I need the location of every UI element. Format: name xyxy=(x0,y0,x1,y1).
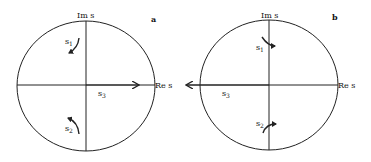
panel-label: a xyxy=(151,14,156,24)
imag-axis-label: Im s xyxy=(261,11,278,20)
s1-label: s1 xyxy=(65,37,73,47)
panel-label: b xyxy=(332,12,338,22)
s3-label: s3 xyxy=(98,89,106,99)
s1-label: s1 xyxy=(256,43,264,53)
imag-axis-label: Im s xyxy=(77,11,94,20)
real-axis-label: Re s xyxy=(338,81,355,90)
panel-b: Im s Re s b s1 s2 s3 xyxy=(187,11,355,150)
s2-label: s2 xyxy=(65,124,73,134)
diagram-canvas: Im s Re s a s1 s2 s3 Im s Re s b s1 s2 s… xyxy=(0,0,371,162)
s2-label: s2 xyxy=(256,119,264,129)
s3-label: s3 xyxy=(222,89,230,99)
panel-a: Im s Re s a s1 s2 s3 xyxy=(17,11,172,151)
real-axis-label: Re s xyxy=(155,81,172,90)
